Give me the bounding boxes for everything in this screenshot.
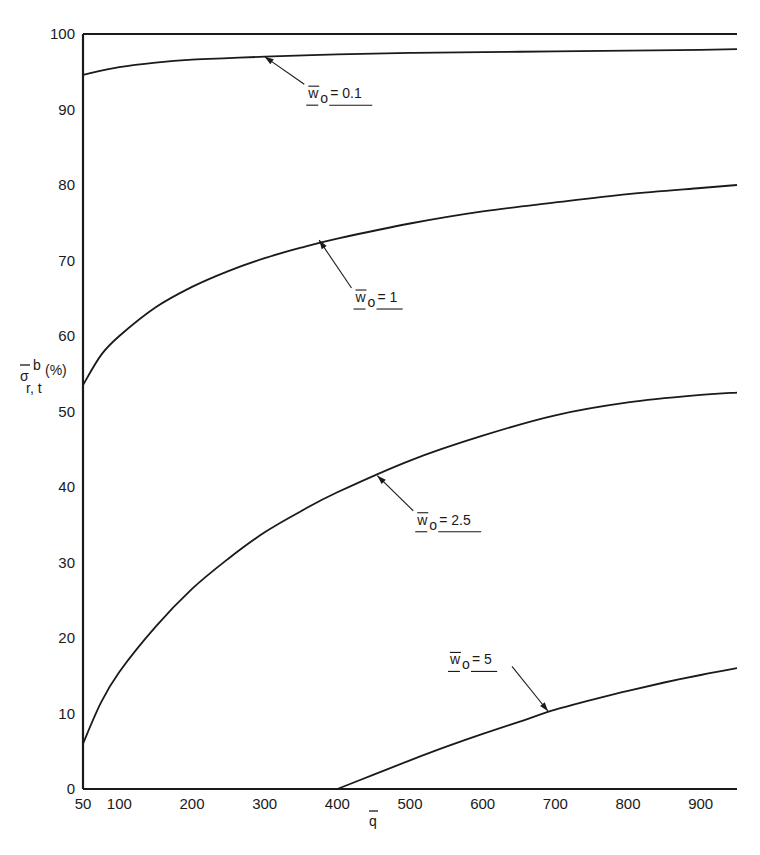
x-tick-label: 900: [688, 795, 713, 812]
x-tick-label: 400: [325, 795, 350, 812]
series-annotation: wo= 2.5: [377, 476, 481, 533]
y-tick-label: 80: [58, 176, 75, 193]
annotation-layer: wo= 0.1wo= 1wo= 2.5wo= 5: [265, 57, 548, 712]
y-tick-label: 100: [50, 25, 75, 42]
y-axis-ticks: 0102030405060708090100: [50, 25, 75, 797]
annotation-symbol: w: [449, 651, 461, 667]
annotation-value: = 2.5: [439, 512, 471, 528]
annotation-value: = 0.1: [330, 85, 362, 101]
y-tick-label: 30: [58, 554, 75, 571]
x-tick-label: 700: [543, 795, 568, 812]
x-tick-label: 200: [179, 795, 204, 812]
y-axis-label-unit: (%): [45, 362, 67, 378]
annotation-subscript: o: [320, 90, 328, 106]
series-line-w0_1: [83, 49, 737, 75]
plot-frame: [83, 34, 737, 789]
annotation-value: = 5: [472, 651, 492, 667]
x-tick-label: 50: [75, 795, 92, 812]
y-axis-label-sub: r, t: [26, 380, 42, 396]
x-tick-label: 300: [252, 795, 277, 812]
series-line-w2_5: [83, 393, 737, 744]
y-tick-label: 10: [58, 705, 75, 722]
annotation-subscript: o: [368, 294, 376, 310]
series-annotation: wo= 1: [319, 240, 403, 310]
series-annotation: wo= 5: [448, 651, 548, 711]
annotation-symbol: w: [355, 289, 367, 305]
x-tick-label: 500: [397, 795, 422, 812]
annotation-symbol: w: [307, 85, 319, 101]
series-annotation: wo= 0.1: [265, 57, 373, 107]
x-tick-label: 600: [470, 795, 495, 812]
y-tick-label: 50: [58, 403, 75, 420]
x-tick-label: 100: [107, 795, 132, 812]
annotation-value: = 1: [378, 289, 398, 305]
annotation-subscript: o: [429, 517, 437, 533]
annotation-subscript: o: [462, 656, 470, 672]
y-tick-label: 90: [58, 101, 75, 118]
x-axis-label-text: q: [369, 813, 377, 829]
x-axis-ticks: 50100200300400500600700800900: [75, 795, 714, 812]
y-tick-label: 70: [58, 252, 75, 269]
series-line-w1: [83, 185, 737, 385]
y-tick-label: 60: [58, 327, 75, 344]
annotation-symbol: w: [416, 512, 428, 528]
y-tick-label: 20: [58, 629, 75, 646]
x-tick-label: 800: [615, 795, 640, 812]
series-layer: [83, 49, 737, 789]
x-axis-label: q: [369, 811, 378, 829]
arrowhead-icon: [265, 57, 274, 65]
y-axis-label: σ b r, t (%): [20, 357, 67, 396]
series-line-w5: [337, 668, 737, 789]
y-tick-label: 40: [58, 478, 75, 495]
chart-canvas: 0102030405060708090100 50100200300400500…: [0, 0, 760, 855]
y-axis-label-sup: b: [33, 357, 41, 373]
